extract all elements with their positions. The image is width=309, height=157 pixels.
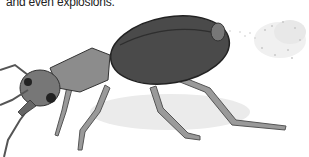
beetle-abdomen — [105, 7, 235, 93]
beetle-eye — [46, 93, 56, 103]
spray-cloud — [224, 20, 306, 59]
beetle-illustration — [0, 0, 309, 157]
